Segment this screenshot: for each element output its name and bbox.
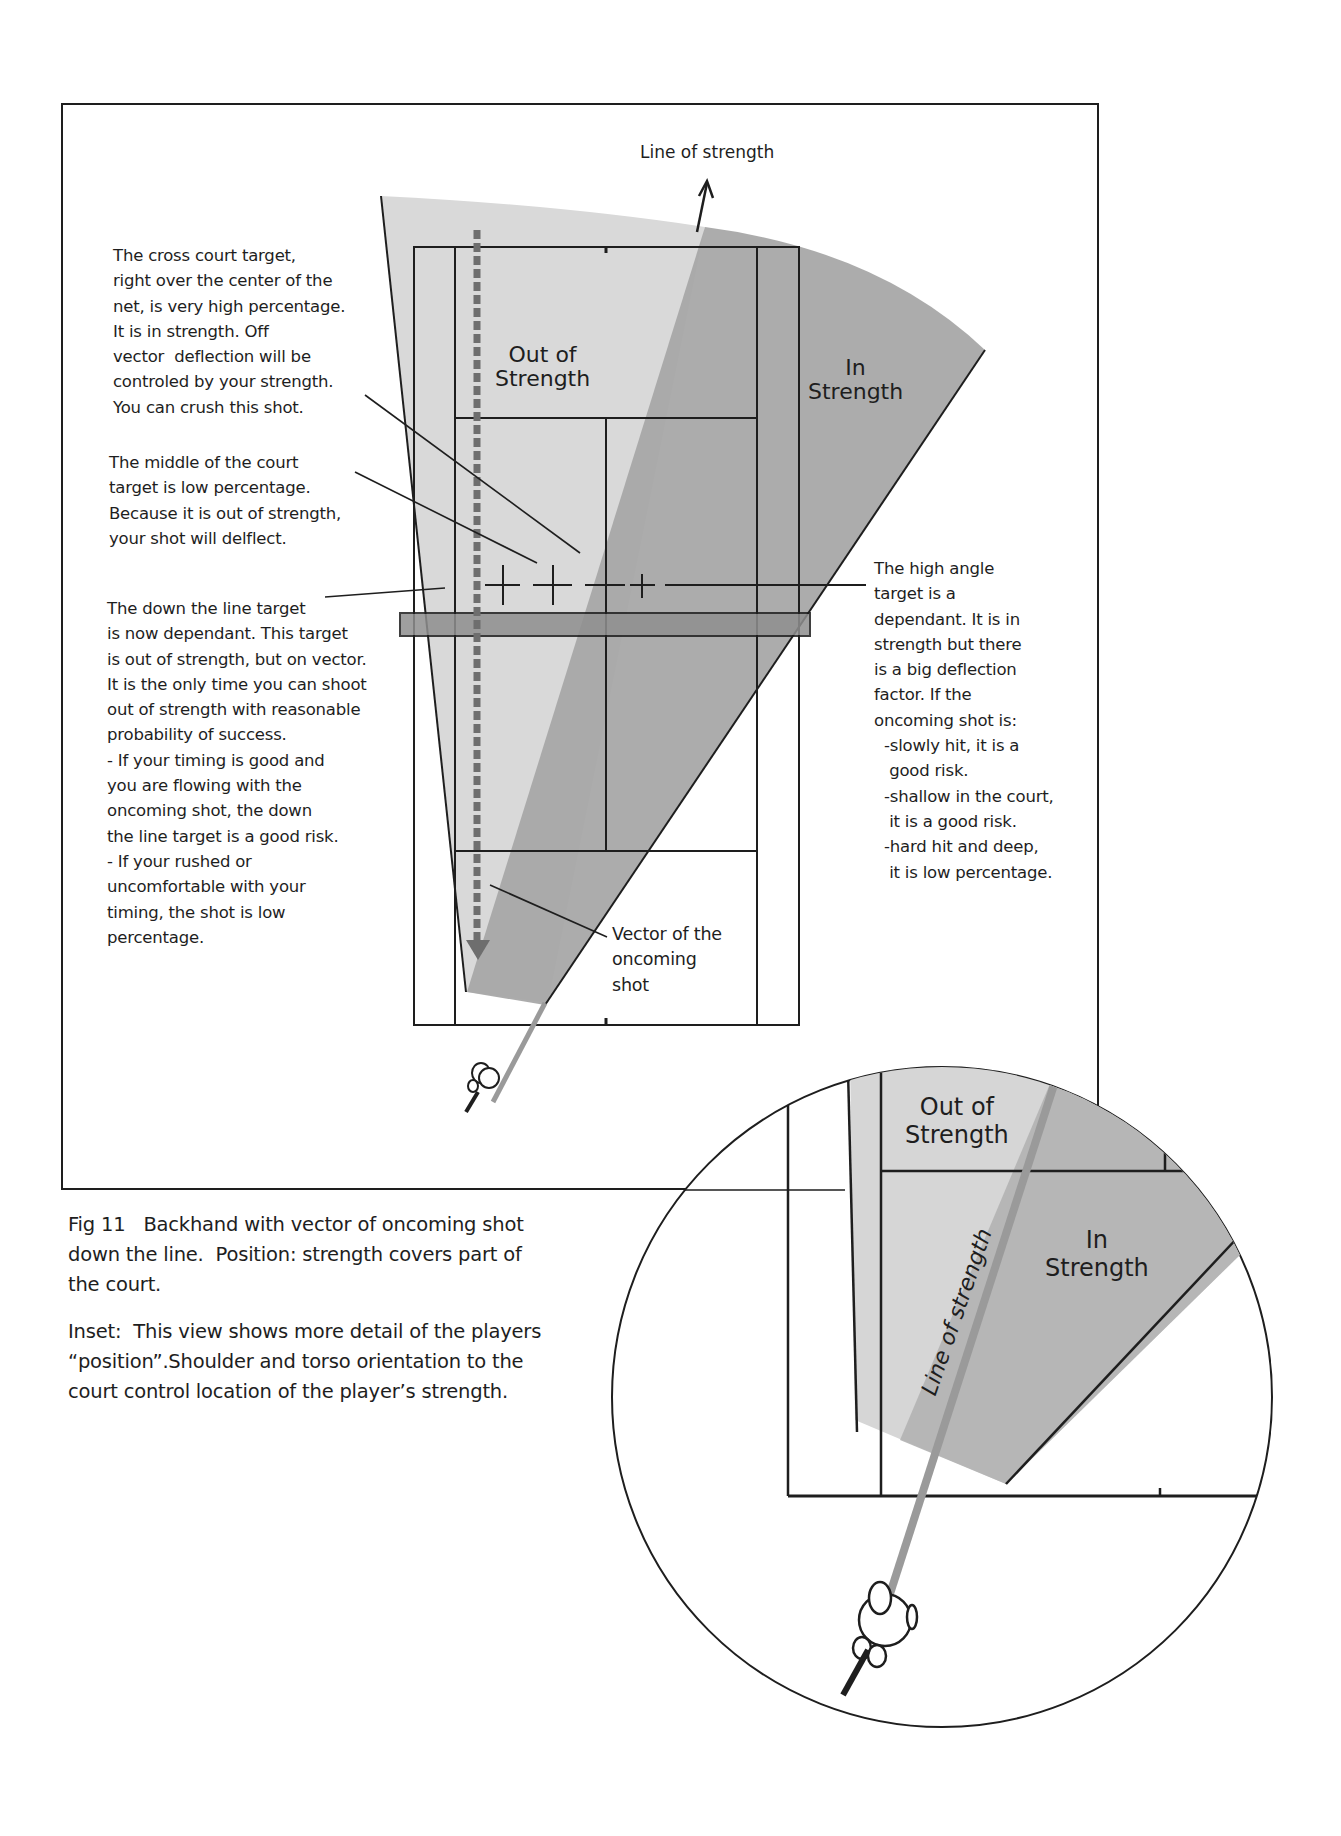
annotation-cross-court: The cross court target, right over the c… xyxy=(113,243,345,420)
inset-out-of-strength-label: Out of Strength xyxy=(905,1093,1009,1149)
out-of-strength-label: Out of Strength xyxy=(495,343,590,391)
net xyxy=(400,613,810,636)
inset-caption: Inset: This view shows more detail of th… xyxy=(68,1317,541,1407)
annotation-high-angle: The high angle target is a dependant. It… xyxy=(874,556,1054,885)
figure-page: Line of strength Out of Strength In Stre… xyxy=(0,0,1341,1836)
inset-in-strength-label: In Strength xyxy=(1045,1226,1149,1282)
figure-caption: Fig 11 Backhand with vector of oncoming … xyxy=(68,1210,524,1300)
inset-view xyxy=(610,1060,1300,1727)
in-strength-label: In Strength xyxy=(808,356,903,404)
annotation-down-the-line: The down the line target is now dependan… xyxy=(107,596,367,950)
annotation-middle: The middle of the court target is low pe… xyxy=(109,450,341,551)
line-of-strength-label: Line of strength xyxy=(640,140,774,164)
vector-label: Vector of the oncoming shot xyxy=(612,922,722,998)
